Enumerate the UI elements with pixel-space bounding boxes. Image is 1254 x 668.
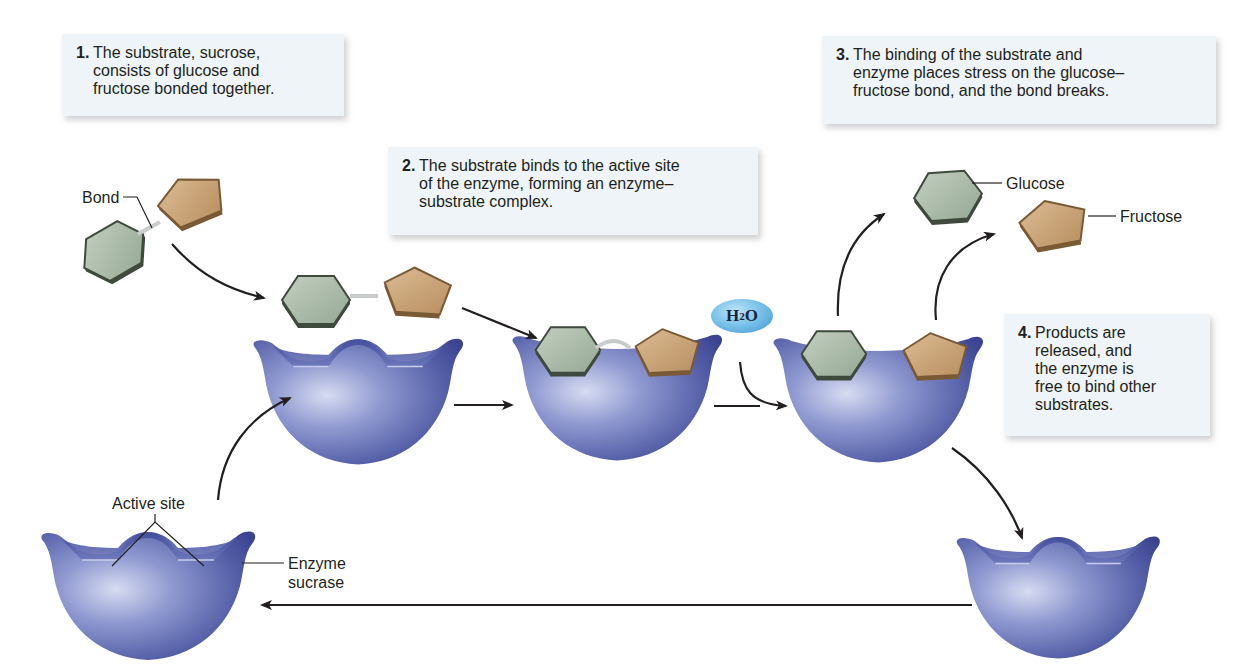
step-2-note: 2. The substrate binds to the active sit…: [388, 147, 758, 235]
starting-enzyme-sucrase: [41, 532, 255, 660]
bond-leader-line: [123, 197, 152, 228]
bond-label: Bond: [82, 188, 119, 207]
arrow-enzyme-freed: [952, 448, 1022, 538]
step-number: 2.: [402, 157, 415, 175]
enzyme-sucrase-label: Enzyme sucrase: [288, 554, 346, 592]
step-text: The substrate binds to the active site o…: [419, 157, 744, 211]
active-site-label: Active site: [112, 494, 185, 513]
step-text: Products are released, and the enzyme is…: [1035, 324, 1196, 414]
released-fructose: [1017, 196, 1089, 255]
step-text: The binding of the substrate and enzyme …: [853, 46, 1202, 100]
step-text: The substrate, sucrose, consists of gluc…: [93, 44, 330, 98]
arrow-release-glucose: [838, 214, 884, 316]
enzyme-with-split-products: [774, 331, 984, 462]
arrow-release-fructose: [935, 234, 994, 320]
water-h: H: [726, 306, 739, 326]
arrow-substrate-to-site: [462, 308, 536, 338]
free-enzyme: [254, 339, 464, 465]
step-number: 4.: [1018, 324, 1031, 342]
released-glucose: [912, 170, 983, 227]
recycled-enzyme: [957, 537, 1160, 659]
arrow-water-hydrolysis: [740, 362, 786, 406]
arrow-sucrose-to-enzyme: [172, 244, 264, 298]
water-o: O: [745, 306, 758, 326]
sucrose-substrate: [72, 167, 231, 293]
glucose-label: Glucose: [1006, 174, 1065, 193]
water-molecule: H2O: [711, 299, 773, 333]
substrate-approaching-enzyme: [282, 265, 452, 328]
fructose-label: Fructose: [1120, 207, 1182, 226]
step-3-note: 3. The binding of the substrate and enzy…: [822, 36, 1216, 124]
step-number: 3.: [836, 46, 849, 64]
enzyme-substrate-complex: [513, 327, 723, 460]
step-4-note: 4. Products are released, and the enzyme…: [1004, 314, 1210, 436]
step-number: 1.: [76, 44, 89, 62]
step-1-note: 1. The substrate, sucrose, consists of g…: [62, 34, 344, 116]
